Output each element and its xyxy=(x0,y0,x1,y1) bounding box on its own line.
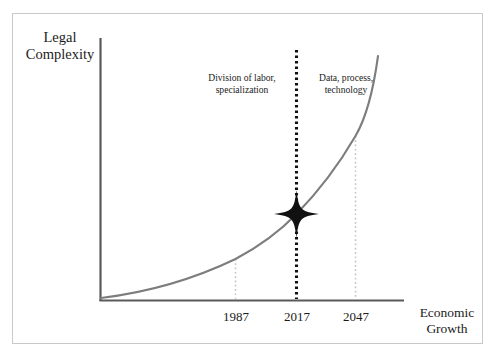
annotation-division-of-labor-line-1: Division of labor, xyxy=(196,72,288,84)
x-axis-label-line-1: Economic xyxy=(408,305,486,321)
annotation-data-process-technology-line-1: Data, process, xyxy=(305,72,387,84)
annotation-division-of-labor-line-2: specialization xyxy=(196,84,288,96)
annotation-division-of-labor: Division of labor, specialization xyxy=(196,72,288,96)
x-tick-label-2047: 2047 xyxy=(328,309,384,325)
x-axis-label: Economic Growth xyxy=(408,305,486,337)
x-tick-label-2017: 2017 xyxy=(269,309,325,325)
annotation-data-process-technology-line-2: technology xyxy=(305,84,387,96)
y-axis-label-line-2: Complexity xyxy=(20,46,100,63)
y-axis-label-line-1: Legal xyxy=(20,29,100,46)
annotation-data-process-technology: Data, process, technology xyxy=(305,72,387,96)
x-axis-label-line-2: Growth xyxy=(408,321,486,337)
y-axis-label: Legal Complexity xyxy=(20,29,100,63)
figure-container: Legal Complexity Economic Growth Divisio… xyxy=(0,0,496,358)
x-tick-label-1987: 1987 xyxy=(208,309,264,325)
